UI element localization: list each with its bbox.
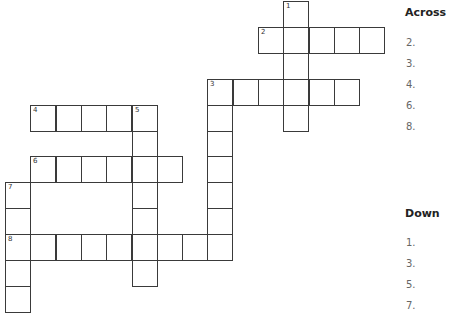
grid-cell[interactable]: 6 — [30, 156, 56, 183]
grid-cell[interactable] — [132, 260, 158, 287]
grid-cell[interactable] — [30, 234, 56, 261]
down-clue-3[interactable]: 3. — [406, 258, 416, 269]
grid-cell[interactable] — [207, 234, 233, 261]
grid-cell[interactable] — [132, 234, 158, 261]
clue-number-label: 7 — [8, 183, 12, 192]
down-clue-5[interactable]: 5. — [406, 279, 416, 290]
grid-cell[interactable] — [258, 79, 284, 106]
grid-cell[interactable] — [233, 79, 259, 106]
grid-cell[interactable]: 5 — [132, 105, 158, 132]
grid-cell[interactable] — [106, 105, 132, 132]
grid-cell[interactable]: 1 — [283, 1, 309, 28]
grid-cell[interactable] — [359, 27, 385, 54]
grid-cell[interactable] — [283, 27, 309, 54]
down-clue-1[interactable]: 1. — [406, 237, 416, 248]
across-clue-2[interactable]: 2. — [406, 37, 416, 48]
grid-cell[interactable] — [106, 234, 132, 261]
grid-cell[interactable] — [334, 27, 360, 54]
grid-cell[interactable] — [182, 234, 208, 261]
grid-cell[interactable]: 2 — [258, 27, 284, 54]
grid-cell[interactable] — [334, 79, 360, 106]
grid-cell[interactable] — [81, 105, 107, 132]
grid-cell[interactable] — [207, 105, 233, 132]
crossword-grid: 12345678 — [0, 0, 395, 324]
grid-cell[interactable] — [157, 234, 183, 261]
grid-cell[interactable] — [132, 131, 158, 158]
clue-number-label: 8 — [8, 235, 12, 244]
clues-panel: Across 2. 3. 4. 6. 8. Down 1. 3. 5. 7. — [405, 0, 451, 324]
grid-cell[interactable] — [207, 208, 233, 235]
grid-cell[interactable] — [309, 79, 335, 106]
clue-number-label: 5 — [135, 106, 139, 115]
grid-cell[interactable]: 4 — [30, 105, 56, 132]
grid-cell[interactable] — [157, 156, 183, 183]
grid-cell[interactable] — [56, 156, 82, 183]
clue-number-label: 2 — [261, 28, 265, 37]
grid-cell[interactable] — [283, 79, 309, 106]
clue-number-label: 3 — [210, 80, 214, 89]
grid-cell[interactable] — [5, 260, 31, 287]
grid-cell[interactable] — [56, 105, 82, 132]
grid-cell[interactable] — [5, 208, 31, 235]
across-clue-4[interactable]: 4. — [406, 79, 416, 90]
across-heading: Across — [405, 6, 446, 19]
grid-cell[interactable]: 3 — [207, 79, 233, 106]
across-clue-8[interactable]: 8. — [406, 121, 416, 132]
grid-cell[interactable]: 7 — [5, 182, 31, 209]
down-clue-7[interactable]: 7. — [406, 300, 416, 311]
grid-cell[interactable] — [309, 27, 335, 54]
grid-cell[interactable] — [207, 182, 233, 209]
down-heading: Down — [405, 207, 440, 220]
across-clue-3[interactable]: 3. — [406, 58, 416, 69]
grid-cell[interactable] — [106, 156, 132, 183]
grid-cell[interactable] — [5, 286, 31, 313]
grid-cell[interactable] — [81, 156, 107, 183]
grid-cell[interactable] — [132, 208, 158, 235]
grid-cell[interactable]: 8 — [5, 234, 31, 261]
grid-cell[interactable] — [207, 156, 233, 183]
grid-cell[interactable] — [207, 131, 233, 158]
clue-number-label: 1 — [286, 2, 290, 11]
across-clue-6[interactable]: 6. — [406, 100, 416, 111]
grid-cell[interactable] — [283, 53, 309, 80]
grid-cell[interactable] — [283, 105, 309, 132]
grid-cell[interactable] — [132, 182, 158, 209]
grid-cell[interactable] — [132, 156, 158, 183]
clue-number-label: 4 — [33, 106, 37, 115]
clue-number-label: 6 — [33, 157, 37, 166]
grid-cell[interactable] — [81, 234, 107, 261]
grid-cell[interactable] — [56, 234, 82, 261]
